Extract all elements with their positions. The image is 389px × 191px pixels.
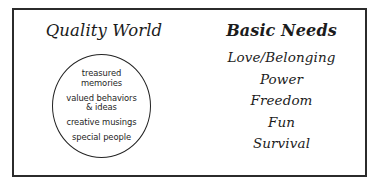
quality-world-item-treasured-memories: treasured memories (81, 69, 122, 88)
basic-needs-item-survival: Survival (253, 134, 310, 152)
basic-needs-list: Love/Belonging Power Freedom Fun Surviva… (194, 48, 369, 152)
quality-world-item-list: treasured memories valued behaviors & id… (53, 55, 150, 157)
basic-needs-heading: Basic Needs (194, 21, 369, 40)
basic-needs-panel: Basic Needs Love/Belonging Power Freedom… (194, 10, 369, 175)
basic-needs-item-love-belonging: Love/Belonging (227, 48, 335, 66)
basic-needs-item-fun: Fun (268, 113, 295, 131)
quality-world-item-valued-behaviors-and-ideas: valued behaviors & ideas (66, 94, 136, 113)
diagram-frame: Quality World treasured memories valued … (12, 8, 367, 177)
quality-world-panel: Quality World treasured memories valued … (14, 10, 194, 175)
diagram-root: Quality World treasured memories valued … (0, 0, 389, 191)
quality-world-circle: treasured memories valued behaviors & id… (52, 54, 151, 158)
basic-needs-item-power: Power (260, 70, 303, 88)
quality-world-heading: Quality World (14, 21, 194, 40)
basic-needs-item-freedom: Freedom (250, 91, 312, 109)
quality-world-item-creative-musings: creative musings (66, 118, 136, 128)
quality-world-item-special-people: special people (72, 133, 131, 143)
